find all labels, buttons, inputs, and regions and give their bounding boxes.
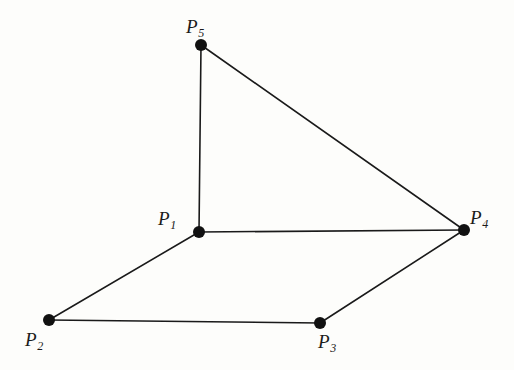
- figure-canvas: P1P2P3P4P5: [0, 0, 514, 370]
- vertex-label-letter: P: [186, 16, 198, 37]
- vertex-label-p2: P2: [25, 330, 43, 349]
- vertex-label-letter: P: [318, 331, 330, 352]
- vertex-label-letter: P: [470, 207, 482, 228]
- graph-vertex-p1: [193, 226, 205, 238]
- graph-vertex-p5: [195, 39, 207, 51]
- graph-edge-p5-p4: [201, 45, 464, 230]
- vertex-label-p4: P4: [470, 208, 488, 227]
- graph-diagram-svg: [0, 0, 514, 370]
- vertex-label-index: 3: [330, 341, 336, 355]
- graph-edge-p3-p4: [320, 230, 464, 323]
- vertex-label-letter: P: [158, 208, 170, 229]
- graph-edge-p1-p4: [199, 230, 464, 232]
- graph-edge-p1-p2: [49, 232, 199, 320]
- graph-edge-p2-p3: [49, 320, 320, 323]
- graph-vertex-p2: [43, 314, 55, 326]
- graph-vertex-p4: [458, 224, 470, 236]
- graph-edge-p5-p1: [199, 45, 201, 232]
- vertex-label-index: 2: [37, 339, 43, 353]
- vertex-label-p5: P5: [186, 17, 204, 36]
- graph-vertex-p3: [314, 317, 326, 329]
- vertex-label-letter: P: [25, 329, 37, 350]
- vertex-label-p1: P1: [158, 209, 176, 228]
- vertex-label-p3: P3: [318, 332, 336, 351]
- vertex-label-index: 5: [198, 26, 204, 40]
- vertex-label-index: 4: [482, 217, 488, 231]
- edges-group: [49, 45, 464, 323]
- vertex-label-index: 1: [170, 218, 176, 232]
